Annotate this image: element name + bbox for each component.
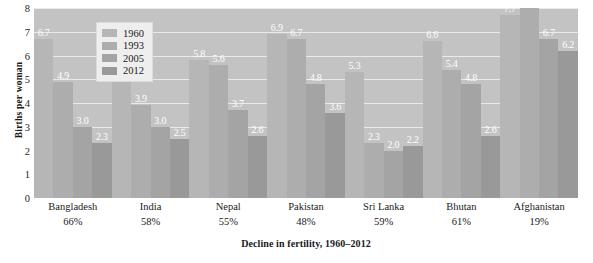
bar-value-label: 5.8 xyxy=(193,48,205,59)
legend-item-2005[interactable]: 2005 xyxy=(102,52,144,65)
bar-pakistan-1993[interactable]: 6.7 xyxy=(287,39,306,198)
bar-group: 7.78.06.76.2 xyxy=(500,8,578,198)
bar-bhutan-1960[interactable]: 6.6 xyxy=(423,41,442,198)
country-label: India xyxy=(112,199,190,214)
decline-percent-label: 19% xyxy=(500,214,578,230)
country-label: Nepal xyxy=(189,199,267,214)
legend-item-1960[interactable]: 1960 xyxy=(102,27,144,40)
y-tick-0: 0 xyxy=(0,193,30,204)
legend: 1960199320052012 xyxy=(96,22,153,82)
bar-bhutan-2012[interactable]: 2.6 xyxy=(481,136,500,198)
y-tick-8: 8 xyxy=(0,3,30,14)
bar-pakistan-2005[interactable]: 4.8 xyxy=(306,84,325,198)
legend-swatch-icon xyxy=(102,42,117,50)
bar-group: 6.96.74.83.6 xyxy=(267,8,345,198)
bar-bhutan-1993[interactable]: 5.4 xyxy=(442,70,461,198)
bar-value-label: 3.7 xyxy=(232,98,244,109)
x-axis-tick-labels: Bangladesh66%India58%Nepal55%Pakistan48%… xyxy=(34,199,578,230)
bar-sri-lanka-1993[interactable]: 2.3 xyxy=(364,143,383,198)
bar-value-label: 6.9 xyxy=(271,22,283,33)
x-tick-group: Sri Lanka59% xyxy=(345,199,423,230)
x-tick-group: Bangladesh66% xyxy=(34,199,112,230)
bar-value-label: 5.3 xyxy=(349,60,361,71)
bar-value-label: 4.8 xyxy=(465,72,477,83)
bar-group: 5.32.32.02.2 xyxy=(345,8,423,198)
y-tick-4: 4 xyxy=(0,98,30,109)
plot-area: 6.74.93.02.35.93.93.02.55.85.63.72.66.96… xyxy=(34,8,578,198)
country-label: Afghanistan xyxy=(500,199,578,214)
bar-value-label: 2.3 xyxy=(96,131,108,142)
x-tick-group: India58% xyxy=(112,199,190,230)
bar-india-2012[interactable]: 2.5 xyxy=(170,139,189,198)
legend-item-1993[interactable]: 1993 xyxy=(102,40,144,53)
x-axis-title: Decline in fertility, 1960–2012 xyxy=(34,238,578,249)
bar-value-label: 6.7 xyxy=(38,27,50,38)
fertility-bar-chart: Births per woman 876543210 6.74.93.02.35… xyxy=(0,0,593,263)
country-label: Pakistan xyxy=(267,199,345,214)
bar-afghanistan-1960[interactable]: 7.7 xyxy=(500,15,519,198)
bar-value-label: 2.0 xyxy=(387,139,399,150)
bar-value-label: 2.6 xyxy=(251,124,263,135)
bar-bangladesh-1993[interactable]: 4.9 xyxy=(53,82,72,198)
bar-pakistan-2012[interactable]: 3.6 xyxy=(325,113,344,199)
bar-value-label: 4.8 xyxy=(310,72,322,83)
decline-percent-label: 61% xyxy=(423,214,501,230)
decline-percent-label: 59% xyxy=(345,214,423,230)
bar-group: 6.65.44.82.6 xyxy=(423,8,501,198)
decline-percent-label: 58% xyxy=(112,214,190,230)
bar-bangladesh-2012[interactable]: 2.3 xyxy=(92,143,111,198)
bar-india-2005[interactable]: 3.0 xyxy=(151,127,170,198)
legend-item-2012[interactable]: 2012 xyxy=(102,65,144,78)
bar-sri-lanka-2005[interactable]: 2.0 xyxy=(384,151,403,199)
bar-value-label: 3.9 xyxy=(135,93,147,104)
bar-bhutan-2005[interactable]: 4.8 xyxy=(461,84,480,198)
legend-swatch-icon xyxy=(102,54,117,62)
bar-value-label: 3.0 xyxy=(154,115,166,126)
x-tick-group: Pakistan48% xyxy=(267,199,345,230)
bar-bangladesh-2005[interactable]: 3.0 xyxy=(73,127,92,198)
bar-sri-lanka-2012[interactable]: 2.2 xyxy=(403,146,422,198)
bar-india-1993[interactable]: 3.9 xyxy=(131,105,150,198)
bar-afghanistan-2005[interactable]: 6.7 xyxy=(539,39,558,198)
bar-value-label: 2.6 xyxy=(485,124,497,135)
legend-swatch-icon xyxy=(102,67,117,75)
bar-value-label: 4.9 xyxy=(57,70,69,81)
bar-afghanistan-2012[interactable]: 6.2 xyxy=(558,51,577,198)
y-tick-5: 5 xyxy=(0,74,30,85)
bar-nepal-1960[interactable]: 5.8 xyxy=(189,60,208,198)
bar-value-label: 5.6 xyxy=(213,53,225,64)
legend-label: 2012 xyxy=(123,65,144,76)
legend-label: 1960 xyxy=(123,28,144,39)
bar-value-label: 5.4 xyxy=(446,58,458,69)
y-tick-1: 1 xyxy=(0,169,30,180)
decline-percent-label: 48% xyxy=(267,214,345,230)
decline-percent-label: 66% xyxy=(34,214,112,230)
bar-pakistan-1960[interactable]: 6.9 xyxy=(267,34,286,198)
bar-sri-lanka-1960[interactable]: 5.3 xyxy=(345,72,364,198)
legend-label: 1993 xyxy=(123,40,144,51)
bar-value-label: 3.0 xyxy=(77,115,89,126)
bar-value-label: 6.6 xyxy=(426,29,438,40)
legend-label: 2005 xyxy=(123,53,144,64)
bar-value-label: 6.2 xyxy=(562,39,574,50)
bar-value-label: 2.5 xyxy=(174,127,186,138)
bar-afghanistan-1993[interactable]: 8.0 xyxy=(520,8,539,198)
bar-bangladesh-1960[interactable]: 6.7 xyxy=(34,39,53,198)
bar-group: 5.85.63.72.6 xyxy=(189,8,267,198)
legend-swatch-icon xyxy=(102,29,117,37)
x-tick-group: Bhutan61% xyxy=(423,199,501,230)
bar-value-label: 7.7 xyxy=(504,8,516,14)
x-tick-group: Afghanistan19% xyxy=(500,199,578,230)
bar-value-label: 3.6 xyxy=(329,101,341,112)
bar-nepal-2005[interactable]: 3.7 xyxy=(228,110,247,198)
bar-value-label: 6.7 xyxy=(290,27,302,38)
decline-percent-label: 55% xyxy=(189,214,267,230)
y-axis-tick-labels: 876543210 xyxy=(0,8,30,198)
bar-nepal-1993[interactable]: 5.6 xyxy=(209,65,228,198)
bar-nepal-2012[interactable]: 2.6 xyxy=(248,136,267,198)
x-tick-group: Nepal55% xyxy=(189,199,267,230)
bar-value-label: 2.3 xyxy=(368,131,380,142)
y-tick-3: 3 xyxy=(0,121,30,132)
country-label: Sri Lanka xyxy=(345,199,423,214)
y-tick-6: 6 xyxy=(0,50,30,61)
